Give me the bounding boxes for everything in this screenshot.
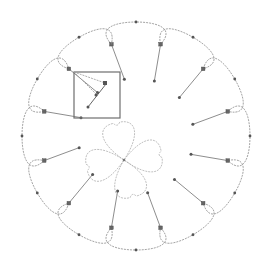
petal-tip-point[interactable] <box>36 78 39 81</box>
handle-line[interactable] <box>174 179 203 203</box>
inner-clover-shape[interactable] <box>86 122 163 199</box>
selected-handle-line[interactable] <box>74 72 105 83</box>
anchor-point[interactable] <box>42 159 46 163</box>
anchor-point[interactable] <box>159 42 163 46</box>
handle-point[interactable] <box>153 79 156 82</box>
petal-path[interactable] <box>22 106 44 166</box>
handle-line[interactable] <box>44 148 79 161</box>
petal-tip-point[interactable] <box>233 78 236 81</box>
selected-anchor-handle[interactable] <box>74 72 107 109</box>
petal-tip-point[interactable] <box>36 192 39 195</box>
handle-line[interactable] <box>111 44 124 79</box>
handle-line[interactable] <box>179 69 203 98</box>
handle-point[interactable] <box>91 173 94 176</box>
selected-handle-line[interactable] <box>74 72 97 95</box>
handle-point[interactable] <box>190 153 193 156</box>
handle-point[interactable] <box>123 78 126 81</box>
anchor-point[interactable] <box>201 201 205 205</box>
handle-line[interactable] <box>148 193 161 228</box>
petal-tip-point[interactable] <box>135 21 138 24</box>
petal-tip-point[interactable] <box>135 249 138 252</box>
handle-point[interactable] <box>78 146 81 149</box>
handle-point[interactable] <box>191 123 194 126</box>
handle-line[interactable] <box>69 174 93 203</box>
clover-leaf-path[interactable] <box>103 122 135 160</box>
petal-tip-point[interactable] <box>249 135 252 138</box>
petal-tip-point[interactable] <box>78 36 81 39</box>
anchor-point[interactable] <box>110 226 114 230</box>
selected-handle-point[interactable] <box>87 106 90 109</box>
anchor-point[interactable] <box>226 110 230 114</box>
anchor-point[interactable] <box>67 201 71 205</box>
drawing-canvas[interactable]: 12-petal flower outline 4-petal clover s… <box>0 0 268 272</box>
petal-tip-point[interactable] <box>192 233 195 236</box>
anchor-point[interactable] <box>67 67 71 71</box>
handle-line[interactable] <box>154 44 160 81</box>
handle-point[interactable] <box>146 191 149 194</box>
handle-point[interactable] <box>116 190 119 193</box>
vector-artwork[interactable] <box>0 0 268 272</box>
petal-tip-point[interactable] <box>21 135 24 138</box>
handle-point[interactable] <box>173 178 176 181</box>
clover-leaf-path[interactable] <box>86 149 124 181</box>
petal-path[interactable] <box>106 228 166 250</box>
selected-handle-point[interactable] <box>95 94 98 97</box>
petal-path[interactable] <box>106 22 166 44</box>
anchor-point[interactable] <box>201 67 205 71</box>
handle-line[interactable] <box>111 191 117 228</box>
petal-tip-point[interactable] <box>192 36 195 39</box>
anchor-point[interactable] <box>159 226 163 230</box>
petal-path[interactable] <box>228 106 250 166</box>
clover-leaf-path[interactable] <box>124 140 162 172</box>
clover-center-point[interactable] <box>123 159 126 162</box>
petal-tip-point[interactable] <box>233 192 236 195</box>
handle-line[interactable] <box>44 111 81 117</box>
flower-outline[interactable] <box>21 21 252 252</box>
anchor-point[interactable] <box>226 159 230 163</box>
petal-tip-point[interactable] <box>78 233 81 236</box>
handle-point[interactable] <box>178 96 181 99</box>
handle-line[interactable] <box>193 111 228 124</box>
handle-line[interactable] <box>191 154 228 160</box>
anchor-point[interactable] <box>110 42 114 46</box>
anchor-point[interactable] <box>42 110 46 114</box>
selected-handle-point[interactable] <box>103 81 107 85</box>
